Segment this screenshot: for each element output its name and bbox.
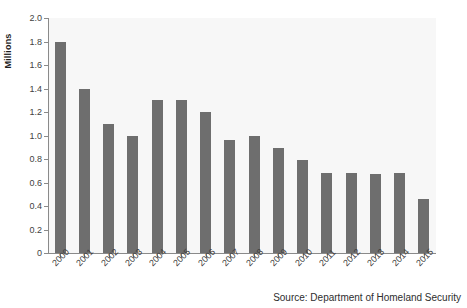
bar [273,148,284,253]
bar [55,42,66,254]
y-tick-label: 1.8 [2,37,42,47]
y-tick-mark [44,206,48,207]
bar [418,199,429,253]
y-tick-mark [44,65,48,66]
bar [321,173,332,253]
bar [103,124,114,253]
bar [176,100,187,253]
y-tick-label: 1.0 [2,131,42,141]
y-tick-label: 0 [2,248,42,258]
y-tick-label: 0.6 [2,178,42,188]
y-tick-mark [44,112,48,113]
bar [297,160,308,253]
y-tick-mark [44,253,48,254]
y-tick-label: 0.8 [2,154,42,164]
bar-chart-figure: Millions 00.20.40.60.81.01.21.41.61.82.0… [0,0,467,308]
bar [79,89,90,254]
bar [224,140,235,253]
y-axis-title: Millions [0,14,16,88]
y-tick-label: 1.6 [2,60,42,70]
source-note: Source: Department of Homeland Security [273,292,461,303]
y-tick-mark [44,18,48,19]
y-axis-line [48,18,49,254]
bar [249,136,260,254]
y-tick-label: 1.4 [2,84,42,94]
y-tick-label: 1.2 [2,107,42,117]
y-tick-label: 0.2 [2,225,42,235]
y-tick-mark [44,183,48,184]
bar [394,173,405,253]
y-tick-mark [44,159,48,160]
bar [127,136,138,254]
y-tick-mark [44,136,48,137]
y-tick-mark [44,230,48,231]
y-tick-mark [44,89,48,90]
bar [152,100,163,253]
bar [346,173,357,253]
y-tick-label: 0.4 [2,201,42,211]
y-tick-label: 2.0 [2,13,42,23]
bar [370,174,381,253]
y-tick-mark [44,42,48,43]
bar [200,112,211,253]
plot-area: 00.20.40.60.81.01.21.41.61.82.0 20002001… [48,18,436,254]
